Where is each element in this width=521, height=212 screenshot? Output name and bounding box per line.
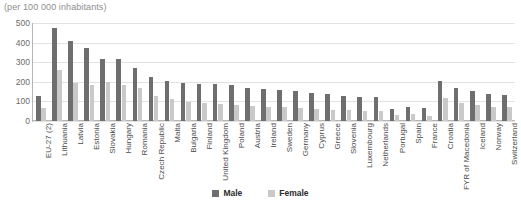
y-axis-tick-label: 0 — [2, 116, 30, 126]
bar-group — [100, 23, 110, 121]
y-axis-ticks: 0100200300400500 — [0, 23, 30, 121]
x-axis-tick-label: Finland — [205, 123, 214, 150]
bar-group — [116, 23, 126, 121]
bar-female — [331, 110, 336, 121]
x-axis-tick-label: Austria — [253, 123, 262, 148]
bar-group — [486, 23, 496, 121]
bar-group — [454, 23, 464, 121]
bar-group — [84, 23, 94, 121]
bar-male — [325, 94, 330, 121]
bar-male — [486, 94, 491, 121]
bar-male — [454, 88, 459, 121]
bar-group — [181, 23, 191, 121]
x-axis-tick-label: Iceland — [478, 123, 487, 149]
bar-female — [491, 107, 496, 121]
x-axis-tick-label: France — [430, 123, 439, 148]
bar-male — [341, 96, 346, 121]
bar-female — [314, 109, 319, 121]
y-axis-tick-label: 200 — [2, 77, 30, 87]
x-axis-tick-label: Slovenia — [349, 123, 358, 154]
bar-female — [266, 107, 271, 121]
legend-label: Male — [223, 188, 242, 198]
bar-female — [106, 82, 111, 121]
bar-female — [218, 104, 223, 121]
bar-group — [309, 23, 319, 121]
bar-female — [379, 111, 384, 121]
bar-male — [390, 109, 395, 121]
bar-group — [293, 23, 303, 121]
chart-legend: MaleFemale — [0, 188, 521, 198]
bar-female — [443, 98, 448, 121]
bar-group — [197, 23, 207, 121]
x-axis-tick-label: Luxembourg — [365, 123, 374, 168]
bar-group — [68, 23, 78, 121]
bar-group — [133, 23, 143, 121]
bar-group — [374, 23, 384, 121]
x-axis-tick-label: Estonia — [92, 123, 101, 150]
bar-female — [234, 105, 239, 121]
bar-female — [154, 96, 159, 121]
bar-chart: (per 100 000 inhabitants) 01002003004005… — [0, 0, 521, 212]
bar-male — [470, 91, 475, 121]
y-axis-tick-label: 300 — [2, 57, 30, 67]
bar-male — [374, 97, 379, 121]
bar-male — [261, 89, 266, 121]
bar-female — [347, 110, 352, 121]
legend-swatch-icon — [268, 190, 275, 197]
bar-male — [422, 108, 427, 121]
x-axis-labels: EU-27 (2)LithuaniaLatviaEstoniaSlovakiaH… — [33, 121, 515, 183]
y-axis-tick-label: 400 — [2, 38, 30, 48]
bar-group — [149, 23, 159, 121]
legend-swatch-icon — [212, 190, 219, 197]
bar-group — [213, 23, 223, 121]
bar-female — [73, 83, 78, 121]
bar-female — [90, 85, 95, 121]
x-axis-tick-label: Bulgaria — [189, 123, 198, 153]
bar-group — [325, 23, 335, 121]
bar-male — [438, 81, 443, 121]
bar-male — [293, 91, 298, 121]
x-axis-tick-label: Sweden — [285, 123, 294, 152]
bar-female — [138, 88, 143, 121]
bar-male — [36, 96, 41, 121]
bar-female — [282, 107, 287, 121]
bar-male — [309, 93, 314, 121]
bar-female — [459, 103, 464, 121]
bar-male — [133, 68, 138, 121]
bar-male — [165, 81, 170, 121]
x-axis-tick-label: Romania — [140, 123, 149, 155]
bar-male — [406, 107, 411, 121]
legend-item: Female — [268, 188, 308, 198]
x-axis-tick-label: Croatia — [446, 123, 455, 149]
y-axis-tick-label: 100 — [2, 96, 30, 106]
bar-group — [341, 23, 351, 121]
bar-group — [390, 23, 400, 121]
bar-male — [213, 84, 218, 121]
x-axis-tick-label: FYR of Macedonia — [462, 123, 471, 190]
bar-female — [250, 106, 255, 121]
bar-group — [422, 23, 432, 121]
bar-male — [68, 41, 73, 121]
legend-item: Male — [212, 188, 242, 198]
bar-female — [186, 102, 191, 121]
x-axis-tick-label: Slovakia — [108, 123, 117, 154]
bar-male — [149, 77, 154, 121]
bar-female — [298, 108, 303, 121]
bar-male — [84, 48, 89, 122]
bar-male — [357, 97, 362, 121]
x-axis-tick-label: Poland — [237, 123, 246, 148]
bar-group — [470, 23, 480, 121]
x-axis-tick-label: Hungary — [124, 123, 133, 154]
bar-female — [122, 85, 127, 121]
bar-male — [52, 28, 57, 121]
x-axis-tick-label: Ireland — [269, 123, 278, 148]
x-axis-tick-label: Netherlands — [381, 123, 390, 167]
legend-label: Female — [279, 188, 308, 198]
x-axis-tick-label: United Kingdom — [221, 123, 230, 181]
x-axis-tick-label: Czech Republic — [157, 123, 166, 180]
bar-group — [438, 23, 448, 121]
bar-group — [229, 23, 239, 121]
x-axis-tick-label: Switzerland — [510, 123, 519, 165]
bar-group — [245, 23, 255, 121]
bar-female — [475, 105, 480, 121]
